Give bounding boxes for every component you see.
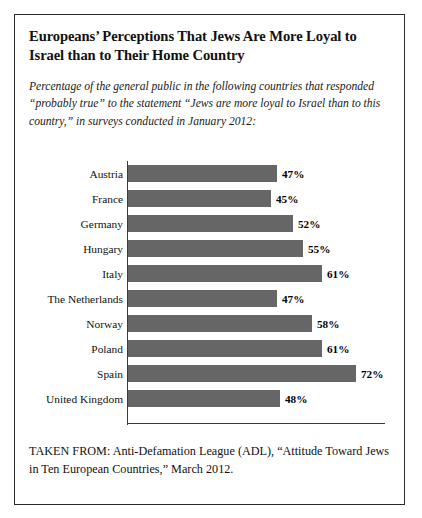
bar-value-label: 47% (282, 293, 304, 305)
bar-poland (128, 340, 322, 357)
bar-value-label: 47% (282, 168, 304, 180)
bar-row: France45% (29, 186, 392, 211)
bar-category-label: Austria (89, 168, 123, 180)
bar-row: Hungary55% (29, 236, 392, 261)
bar-category-label: Germany (81, 218, 123, 230)
bar-value-label: 61% (327, 343, 349, 355)
chart-plot: Austria47%France45%Germany52%Hungary55%I… (29, 155, 392, 427)
bar-row: Poland61% (29, 336, 392, 361)
bar-row: United Kingdom48% (29, 386, 392, 411)
bar-value-label: 52% (298, 218, 320, 230)
bar-category-label: Norway (86, 318, 123, 330)
bar-category-label: United Kingdom (46, 393, 123, 405)
bar-row: Italy61% (29, 261, 392, 286)
bar-the-netherlands (128, 290, 277, 307)
bar-category-label: Hungary (83, 243, 123, 255)
bar-value-label: 48% (285, 393, 307, 405)
bar-norway (128, 315, 312, 332)
bar-value-label: 45% (276, 193, 298, 205)
bar-france (128, 190, 271, 207)
bar-row: Norway58% (29, 311, 392, 336)
x-axis-line (127, 423, 385, 424)
bar-chart: Austria47%France45%Germany52%Hungary55%I… (29, 155, 392, 427)
figure-frame: Europeans’ Perceptions That Jews Are Mor… (14, 14, 405, 505)
figure-subtitle: Percentage of the general public in the … (29, 78, 390, 131)
bar-value-label: 72% (361, 368, 383, 380)
figure-source: TAKEN FROM: Anti-Defamation League (ADL)… (29, 443, 390, 478)
bar-italy (128, 265, 322, 282)
bar-row: The Netherlands47% (29, 286, 392, 311)
bar-category-label: The Netherlands (47, 293, 123, 305)
figure-title: Europeans’ Perceptions That Jews Are Mor… (29, 27, 390, 66)
bar-category-label: France (92, 193, 123, 205)
bar-hungary (128, 240, 303, 257)
bar-category-label: Poland (91, 343, 123, 355)
bar-spain (128, 365, 356, 382)
bar-value-label: 55% (308, 243, 330, 255)
bar-row: Spain72% (29, 361, 392, 386)
bar-value-label: 58% (317, 318, 339, 330)
bar-row: Austria47% (29, 161, 392, 186)
bar-category-label: Italy (102, 268, 123, 280)
bar-united-kingdom (128, 390, 280, 407)
bar-value-label: 61% (327, 268, 349, 280)
bar-category-label: Spain (97, 368, 123, 380)
bar-germany (128, 215, 293, 232)
bar-austria (128, 165, 277, 182)
bar-row: Germany52% (29, 211, 392, 236)
